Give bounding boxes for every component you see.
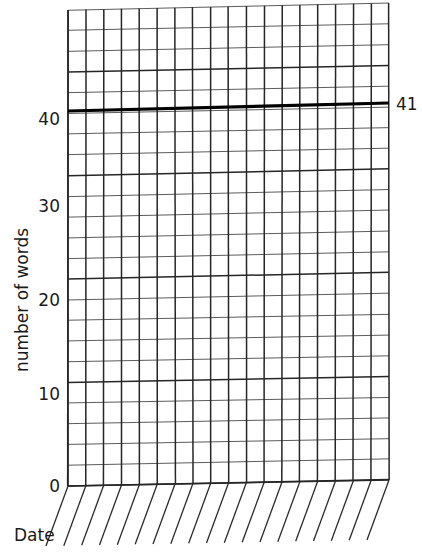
date-tick-marks (46, 480, 389, 546)
grid-major-lines (68, 3, 390, 486)
y-tick-label-20: 20 (38, 290, 60, 310)
y-tick-label-40: 40 (38, 109, 60, 129)
y-tick-label-0: 0 (49, 476, 60, 496)
chart-container: 0 10 20 30 40 41 number of words Date (0, 0, 422, 552)
x-axis-title: Date (14, 525, 55, 545)
y-axis-title: number of words (12, 228, 32, 372)
words-per-date-grid-chart: 0 10 20 30 40 41 number of words Date (0, 0, 422, 552)
goal-value-label: 41 (396, 94, 418, 114)
y-tick-label-10: 10 (38, 384, 60, 404)
y-tick-label-30: 30 (38, 196, 60, 216)
